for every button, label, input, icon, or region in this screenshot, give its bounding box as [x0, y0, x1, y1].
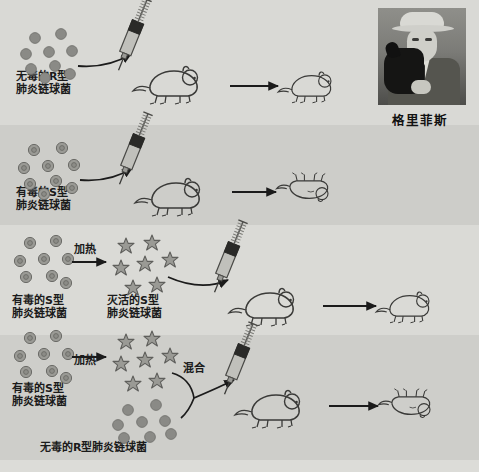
row-4-heat-label: 加热: [74, 354, 96, 367]
row-band-3: [0, 225, 479, 335]
row-1-bacteria-label: 无毒的R型 肺炎链球菌: [16, 70, 71, 96]
photo-eye-left: [412, 38, 419, 41]
photo-hand: [411, 80, 431, 94]
row-4-mix-label: 混合: [183, 362, 205, 375]
griffith-experiment-figure: 格里菲斯 无毒的R型 肺炎链球菌 有毒的S型 肺炎链球菌 有毒的S型 肺炎链球菌…: [0, 0, 479, 472]
row-4-second-bacteria-label: 无毒的R型肺炎链球菌: [40, 441, 147, 454]
row-3-heat-label: 加热: [74, 243, 96, 256]
row-4-bacteria-label: 有毒的S型 肺炎链球菌: [12, 382, 67, 408]
photo-hat-brim: [392, 25, 454, 32]
row-3-bacteria-label: 有毒的S型 肺炎链球菌: [12, 294, 67, 320]
row-band-2: [0, 125, 479, 225]
griffith-portrait-photo: [378, 8, 466, 105]
portrait-caption: 格里菲斯: [392, 110, 448, 129]
row-2-bacteria-label: 有毒的S型 肺炎链球菌: [16, 186, 71, 212]
row-band-5: [0, 460, 479, 472]
row-3-product-label: 灭活的S型 肺炎链球菌: [107, 294, 162, 320]
photo-eye-right: [425, 38, 432, 41]
